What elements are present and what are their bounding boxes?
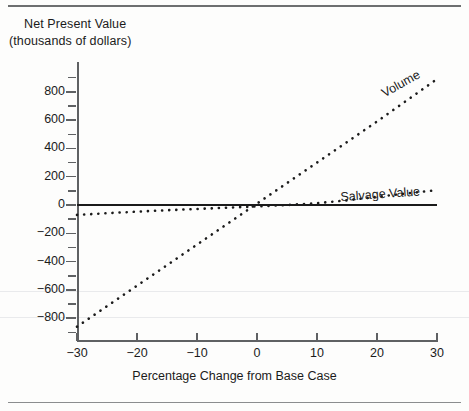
plot-series-layer xyxy=(0,0,469,411)
chart-figure: Net Present Value (thousands of dollars)… xyxy=(0,0,469,411)
series-path-volume xyxy=(77,79,437,327)
x-axis-title: Percentage Change from Base Case xyxy=(0,369,469,383)
